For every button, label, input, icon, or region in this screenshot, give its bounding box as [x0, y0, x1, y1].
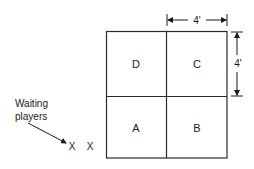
waiting-label-line2: players	[15, 111, 47, 122]
square-b-label: B	[193, 122, 200, 134]
four-square-court-diagram: D C A B 4' 4' Waiting players X X	[0, 0, 254, 169]
vertical-dimension-label: 4'	[234, 58, 242, 69]
waiting-label-line1: Waiting	[15, 98, 48, 109]
waiting-player-marker-2: X	[87, 141, 94, 152]
vertical-dimension: 4'	[231, 32, 243, 96]
horizontal-dimension-label: 4'	[193, 15, 201, 26]
waiting-players-annotation: Waiting players X X	[15, 98, 94, 152]
horizontal-dimension: 4'	[167, 14, 227, 26]
waiting-player-marker-1: X	[69, 141, 76, 152]
square-c-label: C	[193, 58, 201, 70]
waiting-pointer-arrow	[28, 123, 66, 143]
square-d-label: D	[132, 58, 140, 70]
square-a-label: A	[132, 122, 140, 134]
